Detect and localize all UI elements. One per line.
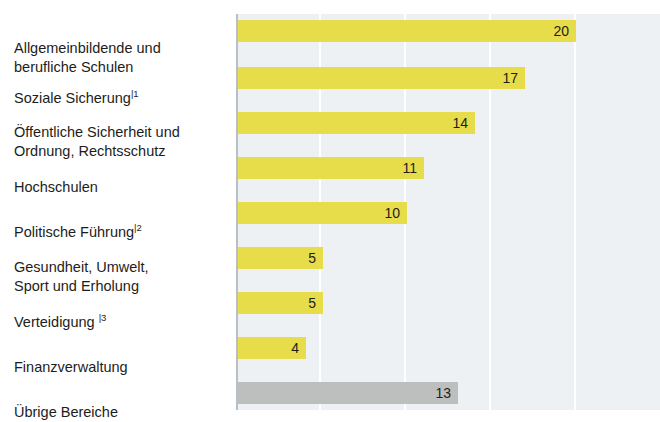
category-label-text: Verteidigung [14,314,99,330]
category-label-gesundheit-umwelt-sport-und-erholung: Gesundheit, Umwelt, Sport und Erholung [14,239,230,296]
gridline-20 [574,14,576,410]
bar-value-label: 14 [452,112,475,134]
category-label-text: Hochschulen [14,179,98,195]
bar-politische-fuehrung: 10 [238,202,407,224]
bar-finanzverwaltung: 4 [238,337,306,359]
bar-uebrige-bereiche: 13 [238,382,458,404]
bar-value-label: 13 [435,382,458,404]
category-label-allgemeinbildende-und-berufliche-schulen: Allgemeinbildende und berufliche Schulen [14,20,230,77]
footnote-marker-1: |1 [131,88,139,99]
category-label-text: Gesundheit, Umwelt, Sport und Erholung [14,259,149,294]
bar-oeffentliche-sicherheit-ordnung-rechtsschutz: 14 [238,112,475,134]
category-label-soziale-sicherung: Soziale Sicherung|1 [14,70,230,108]
bar-value-label: 11 [402,157,424,179]
footnote-marker-3: |3 [99,312,107,323]
bar-value-label: 17 [502,67,525,89]
horizontal-bar-chart: Allgemeinbildende und berufliche Schulen… [0,0,660,422]
bar-value-label: 20 [553,20,576,42]
category-label-text: Öffentliche Sicherheit und Ordnung, Rech… [14,124,180,159]
category-label-oeffentliche-sicherheit-ordnung-rechtsschutz: Öffentliche Sicherheit und Ordnung, Rech… [14,104,230,161]
category-label-text: Politische Führung [14,224,134,240]
category-label-text: Übrige Bereiche [14,404,118,420]
bar-value-label: 10 [384,202,407,224]
bar-hochschulen: 11 [238,157,424,179]
bar-value-label: 5 [308,292,323,314]
category-label-verteidigung: Verteidigung |3 [14,294,230,332]
bar-allgemeinbildende-und-berufliche-schulen: 20 [238,20,576,42]
bar-verteidigung: 5 [238,292,323,314]
bar-gesundheit-umwelt-sport-und-erholung: 5 [238,247,323,269]
bar-soziale-sicherung: 17 [238,67,525,89]
bar-value-label: 4 [291,337,306,359]
bar-value-label: 5 [308,247,323,269]
category-label-uebrige-bereiche: Übrige Bereiche [14,384,230,422]
category-label-text: Finanzverwaltung [14,359,128,375]
footnote-marker-2: |2 [134,222,142,233]
category-label-finanzverwaltung: Finanzverwaltung [14,339,230,377]
category-label-hochschulen: Hochschulen [14,159,230,197]
category-label-politische-fuehrung: Politische Führung|2 [14,204,230,242]
